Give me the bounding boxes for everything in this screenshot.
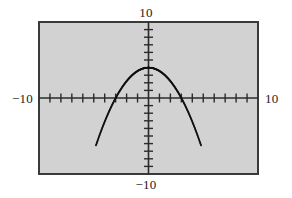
x-axis-max-label: 10: [265, 92, 278, 105]
y-axis-min-label: −10: [136, 178, 157, 191]
y-axis-max-label: 10: [139, 6, 152, 19]
graph-figure: 10 −10 −10 10: [0, 0, 292, 198]
x-axis-min-label: −10: [12, 92, 33, 105]
plot-canvas: [0, 0, 292, 198]
